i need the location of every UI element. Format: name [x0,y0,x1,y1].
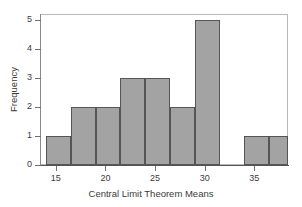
y-axis-tick [35,49,41,50]
y-axis-tick-label: 5 [12,15,32,24]
histogram-bar [96,107,121,165]
histogram-bar [195,20,220,165]
y-axis-tick-label: 4 [12,44,32,53]
x-axis-title: Central Limit Theorem Means [0,188,302,199]
histogram-figure: 012345 1520253035 Central Limit Theorem … [0,0,302,207]
histogram-bar [244,136,269,165]
y-axis-tick-label: 0 [12,160,32,169]
bars-layer [40,14,288,165]
y-axis-tick [35,20,41,21]
histogram-bar [46,136,71,165]
x-axis-line [40,165,289,166]
x-axis-tick-label: 30 [190,173,220,183]
histogram-bar [145,78,170,165]
x-axis-tick [254,166,255,171]
y-axis-tick [35,136,41,137]
y-axis-tick [35,78,41,79]
x-axis-tick-label: 20 [90,173,120,183]
x-axis-tick [105,166,106,171]
x-axis-tick-label: 35 [239,173,269,183]
x-axis-tick [56,166,57,171]
x-axis-tick-label: 25 [140,173,170,183]
y-axis-line [40,14,41,166]
x-axis-tick [205,166,206,171]
histogram-bar [120,78,145,165]
histogram-bar [71,107,96,165]
x-axis-tick [155,166,156,171]
histogram-bar [170,107,195,165]
y-axis-tick-label: 1 [12,131,32,140]
y-axis-title: Frequency [8,55,19,125]
y-axis-tick [35,107,41,108]
y-axis-tick [35,165,41,166]
histogram-bar [269,136,288,165]
x-axis-tick-label: 15 [41,173,71,183]
